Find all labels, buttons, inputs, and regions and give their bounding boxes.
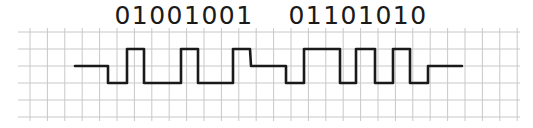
byte-label-2: 01101010 [287, 2, 429, 30]
graph-paper-grid [18, 28, 520, 121]
waveform-diagram [0, 0, 533, 128]
byte-label-1: 01001001 [112, 2, 256, 30]
